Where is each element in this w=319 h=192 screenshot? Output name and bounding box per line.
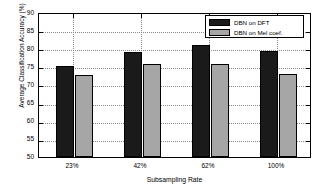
y-tick-60 (39, 123, 43, 124)
y-tick-label-55: 55 (14, 135, 34, 142)
y-tick-70 (39, 86, 43, 87)
y-tick-right-60 (306, 123, 310, 124)
bar-dft-62 (192, 45, 210, 157)
y-tick-85 (39, 32, 43, 33)
legend: DBN on DFT DBN on Mel coef. (205, 15, 304, 38)
y-tick-right-75 (306, 68, 310, 69)
bar-dft-42 (124, 52, 142, 157)
bar-mel-42 (143, 64, 161, 157)
y-tick-75 (39, 68, 43, 69)
x-tick-label-42: 42% (120, 162, 160, 170)
y-tick-right-70 (306, 86, 310, 87)
y-tick-55 (39, 141, 43, 142)
figure-canvas: 90 85 80 75 70 65 60 55 50 Average Class… (0, 0, 319, 192)
bar-mel-62 (211, 64, 229, 157)
bar-mel-23 (75, 75, 93, 157)
legend-swatch-dft (209, 19, 230, 26)
bar-dft-23 (56, 66, 74, 157)
y-axis-title: Average Classification Accuracy (%) (18, 0, 25, 126)
y-tick-65 (39, 105, 43, 106)
y-tick-right-55 (306, 141, 310, 142)
legend-label-dft: DBN on DFT (234, 19, 269, 26)
bar-mel-100 (279, 74, 297, 157)
legend-item-dbn-on-mel-coef: DBN on Mel coef. (209, 28, 300, 37)
x-tick-label-23: 23% (52, 162, 92, 170)
legend-label-mel: DBN on Mel coef. (234, 29, 283, 36)
x-tick-label-100: 100% (256, 162, 296, 170)
y-tick-label-50: 50 (14, 153, 34, 160)
legend-item-dbn-on-dft: DBN on DFT (209, 18, 300, 27)
legend-swatch-mel (209, 29, 230, 36)
bar-dft-100 (260, 51, 278, 157)
x-tick-label-62: 62% (188, 162, 228, 170)
y-tick-right-85 (306, 32, 310, 33)
x-tick-top-23 (73, 14, 74, 18)
y-tick-right-80 (306, 50, 310, 51)
y-tick-80 (39, 50, 43, 51)
x-tick-top-42 (141, 14, 142, 18)
y-tick-right-65 (306, 105, 310, 106)
x-axis-title: Subsampling Rate (38, 176, 311, 183)
